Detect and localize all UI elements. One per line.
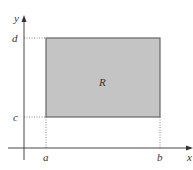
tick-label-d: d: [12, 32, 18, 44]
x-axis-label: x: [186, 151, 192, 163]
y-axis-label: y: [13, 12, 19, 24]
y-axis-arrow-icon: [22, 15, 27, 22]
region-label: R: [98, 76, 106, 88]
rectangle-region-diagram: y x d c a b R: [0, 0, 193, 170]
tick-label-a: a: [43, 151, 49, 163]
x-axis-arrow-icon: [186, 146, 193, 151]
tick-label-c: c: [13, 111, 18, 123]
tick-label-b: b: [157, 151, 163, 163]
